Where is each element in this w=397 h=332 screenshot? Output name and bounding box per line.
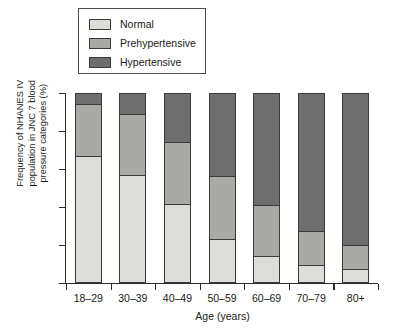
- bar-segment-prehypertensive-80+: [343, 246, 368, 270]
- bar-30–39: [119, 93, 146, 283]
- y-axis-tick: [59, 131, 66, 132]
- bar-segment-prehypertensive-60–69: [254, 206, 279, 257]
- bar-segment-prehypertensive-30–39: [120, 115, 145, 176]
- x-axis-tick: [66, 284, 67, 290]
- bar-segment-prehypertensive-70–79: [299, 232, 324, 267]
- bar-segment-normal-80+: [343, 270, 368, 282]
- x-tick-label-80+: 80+: [329, 292, 383, 304]
- x-axis-tick: [289, 284, 290, 290]
- bar-segment-normal-60–69: [254, 257, 279, 282]
- bar-18–29: [75, 93, 102, 283]
- bar-segment-normal-18–29: [76, 157, 101, 282]
- bar-segment-hypertensive-18–29: [76, 94, 101, 105]
- bar-segment-normal-50–59: [210, 240, 235, 282]
- x-axis-tick: [155, 284, 156, 290]
- bar-segment-hypertensive-70–79: [299, 94, 324, 232]
- bar-segment-normal-70–79: [299, 266, 324, 282]
- y-axis-tick: [59, 207, 66, 208]
- y-axis-tick: [59, 93, 66, 94]
- x-axis-tick: [378, 284, 379, 290]
- bar-segment-normal-40–49: [165, 205, 190, 282]
- bar-50–59: [209, 93, 236, 283]
- bar-segment-hypertensive-60–69: [254, 94, 279, 206]
- x-axis-line: [65, 283, 378, 284]
- bar-segment-prehypertensive-50–59: [210, 177, 235, 239]
- bar-segment-prehypertensive-18–29: [76, 105, 101, 157]
- x-axis-tick: [244, 284, 245, 290]
- x-axis-tick: [200, 284, 201, 290]
- bar-70–79: [298, 93, 325, 283]
- bar-segment-prehypertensive-40–49: [165, 143, 190, 204]
- x-axis-title: Age (years): [0, 310, 397, 322]
- bar-segment-normal-30–39: [120, 176, 145, 282]
- bar-60–69: [253, 93, 280, 283]
- y-axis-tick: [59, 245, 66, 246]
- bar-segment-hypertensive-50–59: [210, 94, 235, 177]
- y-axis-tick: [59, 169, 66, 170]
- bar-segment-hypertensive-40–49: [165, 94, 190, 143]
- y-axis-label: Frequency of NHANES IV population in JNC…: [15, 38, 50, 228]
- y-axis-tick: [59, 283, 66, 284]
- bar-segment-hypertensive-30–39: [120, 94, 145, 115]
- bar-segment-hypertensive-80+: [343, 94, 368, 246]
- x-axis-tick: [111, 284, 112, 290]
- bar-80+: [342, 93, 369, 283]
- x-axis-tick: [333, 284, 334, 290]
- plot-area: [66, 93, 378, 283]
- stacked-bar-chart: Frequency of NHANES IV population in JNC…: [0, 0, 397, 332]
- bar-40–49: [164, 93, 191, 283]
